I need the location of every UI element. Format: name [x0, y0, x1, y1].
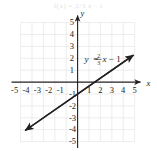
y-tick-label: -5	[69, 136, 76, 146]
x-axis-label: x	[146, 78, 151, 88]
y-tick-label: 5	[70, 17, 74, 27]
y-tick-label: 2	[70, 53, 74, 63]
equation-lhs: y	[84, 54, 89, 64]
equation-minus: −	[109, 54, 114, 64]
equation-denominator: 3	[97, 60, 100, 66]
x-tick-label: -5	[11, 85, 18, 95]
equation-constant: 1	[116, 54, 121, 64]
plotted-line	[25, 55, 133, 130]
figure-container: f(x) = 2/3 x - 1	[0, 0, 157, 151]
x-tick-label: -3	[34, 85, 41, 95]
x-tick-label: -1	[57, 85, 64, 95]
x-tick-label: 3	[110, 85, 114, 95]
x-tick-label: -4	[22, 85, 30, 95]
coordinate-plane: y x -5 -4 -3 -2 -1 1 2 3 4 5 5 4 3 2	[0, 0, 157, 151]
x-tick-label: 5	[132, 85, 136, 95]
x-tick-label: 2	[98, 85, 102, 95]
y-tick-label: -2	[69, 101, 76, 111]
equation-variable: x	[101, 54, 106, 64]
y-tick-label: 1	[70, 65, 74, 75]
graph-svg: y x -5 -4 -3 -2 -1 1 2 3 4 5 5 4 3 2	[0, 0, 157, 151]
y-tick-label: -4	[69, 124, 77, 134]
y-tick-label: -3	[69, 113, 76, 123]
equation-numerator: 2	[97, 53, 100, 59]
y-tick-label: 3	[70, 41, 74, 51]
x-tick-label: 4	[121, 85, 126, 95]
y-axis-label: y	[80, 8, 85, 18]
x-tick-label: -2	[45, 85, 52, 95]
